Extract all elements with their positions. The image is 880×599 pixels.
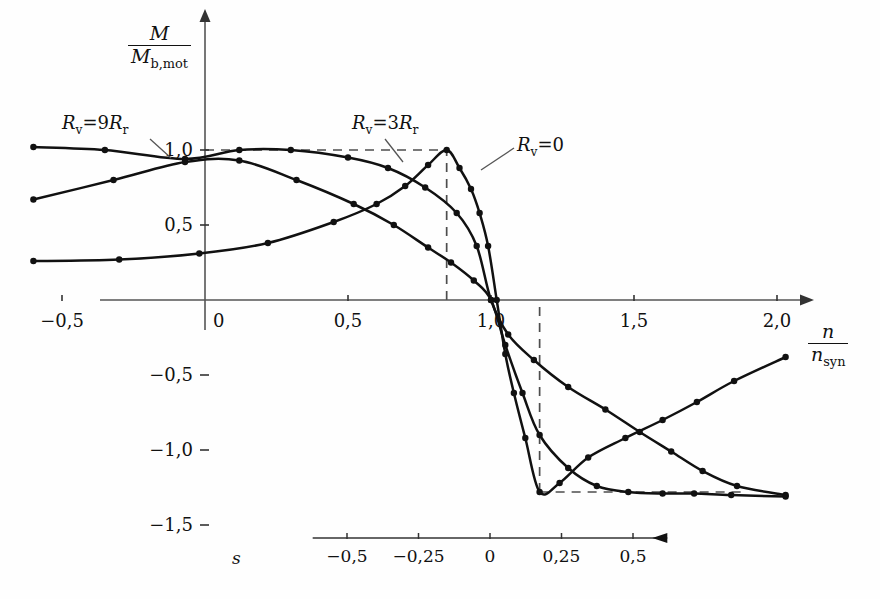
slip-tick-label-4: −0,5: [326, 546, 367, 566]
series-0-point-14: [602, 406, 608, 412]
series-2-point-1: [116, 256, 122, 262]
x-axis-denominator-sub: syn: [823, 354, 845, 369]
series-0-point-16: [668, 448, 674, 454]
series-0-point-11: [505, 331, 511, 337]
y-axis-denominator-sub: b,mot: [150, 56, 188, 71]
series-2-point-5: [373, 201, 379, 207]
series-1-point-13: [536, 432, 542, 438]
y-tick-label-3: −1,0: [149, 439, 193, 460]
annotation-rv-0: Rv=0: [517, 134, 564, 159]
series-2-point-3: [265, 240, 271, 246]
series-2-point-20: [622, 435, 628, 441]
series-0-point-0: [30, 144, 36, 150]
annotation-leader-2: [481, 148, 514, 170]
series-1-point-15: [594, 483, 600, 489]
series-2-point-24: [782, 354, 788, 360]
ann2-r2sub: r: [413, 123, 419, 137]
series-2-point-19: [585, 454, 591, 460]
series-1-point-16: [625, 489, 631, 495]
series-1-point-12: [519, 390, 525, 396]
series-1-point-6: [391, 222, 397, 228]
series-0-point-1: [102, 147, 108, 153]
series-1-point-5: [351, 201, 357, 207]
series-2-point-2: [196, 250, 202, 256]
y-axis-arrow: [200, 9, 211, 22]
slip-axis-label: s: [232, 548, 241, 568]
series-0-point-5: [345, 154, 351, 160]
series-1-point-20: [782, 493, 788, 499]
slip-tick-label-3: −0,25: [392, 546, 444, 566]
series-0-point-12: [531, 357, 537, 363]
series-2-point-15: [511, 390, 517, 396]
annotation-rv-9rr: Rv=9Rr: [62, 112, 128, 137]
series-1-point-2: [182, 159, 188, 165]
chart-canvas: −0,500,51,01,52,01,00,5−0,5−1,0−1,50,50,…: [0, 0, 880, 599]
slip-tick-label-2: 0: [485, 546, 496, 566]
series-1-point-10: [488, 297, 494, 303]
series-1-point-17: [659, 490, 665, 496]
series-1-point-9: [471, 277, 477, 283]
x-axis-denominator: n: [811, 343, 823, 365]
series-0-point-4: [288, 147, 294, 153]
series-2-point-0: [30, 258, 36, 264]
ann2-r: R: [352, 112, 366, 133]
series-2-point-13: [494, 297, 500, 303]
series-line-0: [33, 147, 785, 495]
series-2-point-4: [331, 219, 337, 225]
series-line-2: [33, 150, 785, 495]
series-2-point-6: [402, 183, 408, 189]
y-axis-numerator: M: [128, 24, 191, 46]
x-tick-label-0: −0,5: [40, 310, 84, 331]
y-axis-denominator: M: [131, 45, 150, 67]
series-1-point-4: [293, 177, 299, 183]
slip-tick-label-1: 0,25: [543, 546, 581, 566]
series-0-point-13: [565, 384, 571, 390]
series-0-point-7: [422, 184, 428, 190]
x-tick-label-1: 0: [213, 310, 224, 331]
x-tick-label-5: 2,0: [763, 310, 792, 331]
series-0-point-9: [474, 243, 480, 249]
series-1-point-18: [691, 490, 697, 496]
chart-figure: −0,500,51,01,52,01,00,5−0,5−1,0−1,50,50,…: [0, 0, 880, 599]
annotation-rv-3rr: Rv=3Rr: [352, 112, 418, 137]
ann3-r: R: [517, 134, 531, 155]
series-2-point-16: [522, 435, 528, 441]
series-line-1: [33, 159, 785, 497]
series-2-point-12: [485, 243, 491, 249]
x-axis-label: n nsyn: [808, 322, 848, 368]
x-tick-label-2: 0,5: [334, 310, 363, 331]
ann1-r: R: [62, 112, 76, 133]
ann1-eq: =9: [82, 112, 109, 133]
series-2-point-8: [444, 147, 450, 153]
ann2-eq: =3: [372, 112, 399, 133]
series-0-point-18: [734, 483, 740, 489]
series-2-point-11: [476, 210, 482, 216]
y-tick-label-2: −0,5: [149, 364, 193, 385]
series-2-point-14: [502, 351, 508, 357]
series-2-point-9: [456, 165, 462, 171]
series-2-point-23: [731, 378, 737, 384]
series-0-point-8: [454, 210, 460, 216]
y-tick-label-1: 0,5: [164, 214, 193, 235]
series-1-point-19: [728, 492, 734, 498]
ann3-eq: =0: [537, 134, 564, 155]
y-axis-label: M Mb,mot: [128, 24, 191, 70]
series-1-point-1: [110, 177, 116, 183]
series-2-point-22: [694, 399, 700, 405]
x-tick-label-4: 1,5: [620, 310, 649, 331]
series-2-point-21: [659, 417, 665, 423]
series-1-point-14: [565, 465, 571, 471]
series-1-point-0: [30, 196, 36, 202]
series-0-point-3: [236, 147, 242, 153]
series-2-point-17: [536, 489, 542, 495]
series-1-point-3: [236, 157, 242, 163]
y-tick-label-4: −1,5: [149, 514, 193, 535]
ann2-r2: R: [399, 112, 413, 133]
series-0-point-6: [385, 165, 391, 171]
series-0-point-17: [699, 468, 705, 474]
series-1-point-8: [448, 259, 454, 265]
x-axis-numerator: n: [808, 322, 848, 344]
series-2-point-18: [556, 480, 562, 486]
ann1-r2: R: [109, 112, 123, 133]
series-2-point-10: [468, 186, 474, 192]
